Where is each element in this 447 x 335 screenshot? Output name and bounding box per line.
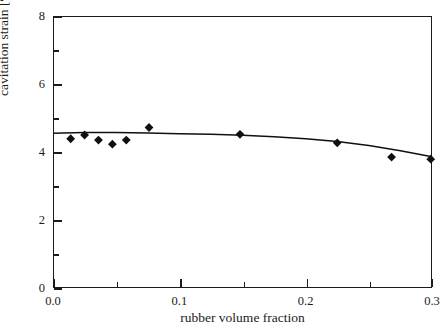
plot-inner xyxy=(54,17,431,287)
y-tick-minor xyxy=(54,254,59,255)
x-tick-major xyxy=(54,279,55,287)
y-tick-label: 6 xyxy=(15,78,45,91)
y-tick-major xyxy=(54,152,62,153)
x-axis-title: rubber volume fraction xyxy=(53,310,432,326)
x-tick-major xyxy=(307,279,308,287)
y-tick-minor xyxy=(54,50,59,51)
x-tick-label: 0.2 xyxy=(286,295,326,308)
x-tick-major xyxy=(432,279,433,287)
y-tick-label: 2 xyxy=(15,214,45,227)
y-axis-title: cavitation strain [%] xyxy=(0,0,12,96)
y-tick-major xyxy=(54,84,62,85)
x-tick-label: 0.0 xyxy=(33,295,73,308)
x-tick-label: 0.3 xyxy=(412,295,447,308)
y-tick-major xyxy=(54,288,62,289)
x-tick-major xyxy=(180,279,181,287)
y-tick-minor xyxy=(54,186,59,187)
x-tick-label: 0.1 xyxy=(159,295,199,308)
y-tick-major xyxy=(54,220,62,221)
x-tick-minor xyxy=(370,282,371,287)
y-tick-major xyxy=(54,16,62,17)
y-tick-label: 4 xyxy=(15,146,45,159)
y-tick-label: 0 xyxy=(15,282,45,295)
y-tick-minor xyxy=(54,118,59,119)
plot-area xyxy=(53,16,432,288)
x-tick-minor xyxy=(244,282,245,287)
x-tick-minor xyxy=(117,282,118,287)
chart-root: cavitation strain [%] rubber volume frac… xyxy=(0,0,447,335)
y-tick-label: 8 xyxy=(15,10,45,23)
